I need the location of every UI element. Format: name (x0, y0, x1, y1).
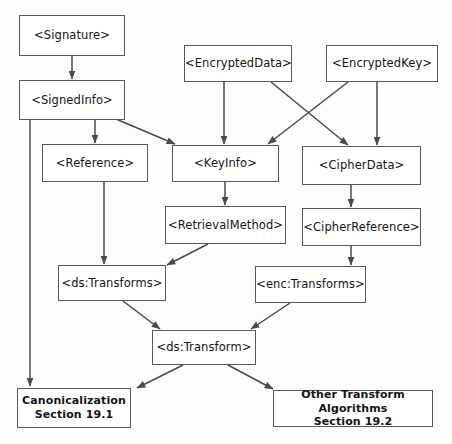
node-label-retrievalmethod: <RetrievalMethod> (166, 218, 285, 232)
node-label-cipherreference: <CipherReference> (303, 220, 420, 234)
node-signature[interactable]: <Signature> (19, 15, 125, 56)
node-label-encrypteddata: <EncryptedData> (185, 56, 291, 70)
diagram-canvas: <Signature><SignedInfo><EncryptedData><E… (0, 0, 452, 444)
node-label-dstransforms: <ds:Transforms> (59, 276, 165, 290)
node-encrypteddata[interactable]: <EncryptedData> (184, 45, 292, 82)
node-cipherdata[interactable]: <CipherData> (302, 146, 421, 185)
node-reference[interactable]: <Reference> (42, 144, 148, 182)
edge-dstransform-to-canonicalization (137, 365, 183, 388)
node-label-signature: <Signature> (20, 28, 124, 42)
node-label-reference: <Reference> (43, 156, 147, 170)
node-canonicalization[interactable]: Canonicalization Section 19.1 (17, 388, 131, 428)
node-signedinfo[interactable]: <SignedInfo> (19, 80, 125, 120)
node-keyinfo[interactable]: <KeyInfo> (172, 145, 279, 182)
node-label-signedinfo: <SignedInfo> (20, 93, 124, 107)
node-retrievalmethod[interactable]: <RetrievalMethod> (165, 206, 286, 244)
edge-dstransforms-to-dstransform (123, 301, 160, 329)
node-dstransforms[interactable]: <ds:Transforms> (58, 265, 166, 301)
node-label-keyinfo: <KeyInfo> (173, 156, 278, 170)
node-label-othertransform: Other Transform Algorithms Section 19.2 (274, 388, 432, 429)
node-label-encryptedkey: <EncryptedKey> (327, 56, 437, 70)
edge-dstransform-to-othertransform (228, 365, 273, 389)
node-label-cipherdata: <CipherData> (303, 158, 420, 172)
node-encryptedkey[interactable]: <EncryptedKey> (326, 45, 438, 82)
node-label-dstransform: <ds:Transform> (153, 340, 255, 354)
node-enctransforms[interactable]: <enc:Transforms> (255, 266, 366, 303)
edge-enctransforms-to-dstransform (251, 303, 290, 329)
node-othertransform[interactable]: Other Transform Algorithms Section 19.2 (273, 390, 433, 427)
node-label-enctransforms: <enc:Transforms> (256, 277, 365, 291)
node-label-canonicalization: Canonicalization Section 19.1 (18, 394, 130, 422)
node-dstransform[interactable]: <ds:Transform> (152, 330, 256, 365)
edge-signedinfo-to-keyinfo (116, 119, 175, 144)
node-cipherreference[interactable]: <CipherReference> (302, 208, 421, 246)
edge-retrievalmethod-to-dstransforms (167, 244, 208, 265)
